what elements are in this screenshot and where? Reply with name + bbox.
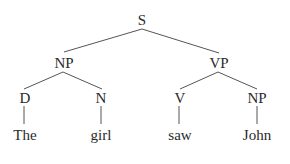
- node-np: NP: [54, 56, 73, 71]
- leaf-saw: saw: [168, 128, 191, 143]
- edge-np-d: [24, 72, 63, 89]
- node-n: N: [96, 91, 107, 106]
- edge-vp-v: [180, 72, 218, 89]
- edge-s-np: [64, 29, 142, 52]
- leaf-the: The: [13, 128, 36, 143]
- edge-s-vp: [142, 29, 219, 53]
- node-s: S: [138, 13, 146, 28]
- leaf-girl: girl: [91, 128, 112, 143]
- leaf-john: John: [243, 128, 271, 143]
- node-v: V: [175, 91, 186, 106]
- edge-np-n: [63, 72, 102, 89]
- node-np-object: NP: [247, 91, 266, 106]
- node-vp: VP: [209, 56, 228, 71]
- edge-vp-np: [218, 72, 257, 89]
- node-d: D: [20, 91, 31, 106]
